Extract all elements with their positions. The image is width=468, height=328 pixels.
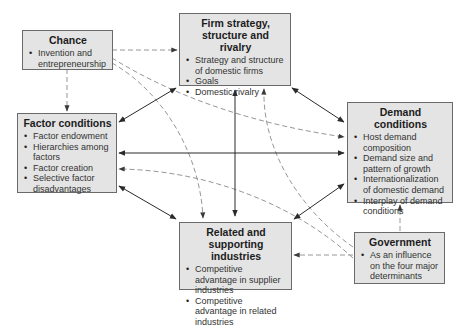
node-item: Competitive advantage in related industr…	[185, 296, 287, 328]
node-factor-conditions: Factor conditions Factor endowment Hiera…	[17, 113, 117, 193]
node-item: Factor creation	[23, 163, 112, 174]
node-government: Government As an influence on the four m…	[354, 232, 445, 284]
node-item: Hierarchies among factors	[23, 142, 112, 163]
node-demand-conditions: Demand conditions Host demand compositio…	[347, 102, 453, 203]
node-item: Goals	[185, 76, 286, 87]
node-title: Chance	[28, 34, 108, 46]
edge-factor-related	[119, 186, 176, 219]
node-item: Factor endowment	[23, 131, 112, 142]
node-items: Competitive advantage in supplier indust…	[185, 264, 287, 328]
node-title: Firm strategy, structure and rivalry	[185, 17, 286, 53]
node-item: Demand size and pattern of growth	[353, 153, 448, 174]
node-item: Host demand composition	[353, 132, 448, 153]
node-item: Strategy and structure of domestic firms	[185, 55, 286, 76]
node-items: As an influence on the four major determ…	[360, 250, 440, 282]
node-chance: Chance Invention and entrepreneurship	[22, 30, 113, 70]
node-firm-strategy: Firm strategy, structure and rivalry Str…	[179, 13, 291, 86]
node-item: Invention and entrepreneurship	[28, 48, 108, 69]
edge-demand-related	[294, 184, 344, 219]
node-items: Host demand composition Demand size and …	[353, 132, 448, 217]
node-items: Invention and entrepreneurship	[28, 48, 108, 69]
node-item: Domestic rivalry	[185, 87, 286, 98]
node-item: As an influence on the four major determ…	[360, 250, 440, 282]
node-items: Strategy and structure of domestic firms…	[185, 55, 286, 97]
node-item: Competitive advantage in supplier indust…	[185, 264, 287, 296]
edge-firm-demand	[292, 88, 344, 122]
node-title: Demand conditions	[353, 106, 448, 130]
node-item: Internationalization of domestic demand	[353, 174, 448, 195]
node-title: Factor conditions	[23, 117, 112, 129]
node-title: Related and supporting industries	[185, 226, 287, 262]
node-item: Selective factor disadvantages	[23, 173, 112, 194]
node-items: Factor endowment Hierarchies among facto…	[23, 131, 112, 195]
node-title: Government	[360, 236, 440, 248]
node-related-industries: Related and supporting industries Compet…	[179, 222, 292, 290]
node-item: Interplay of demand conditions	[353, 196, 448, 217]
edge-firm-factor	[119, 88, 176, 122]
